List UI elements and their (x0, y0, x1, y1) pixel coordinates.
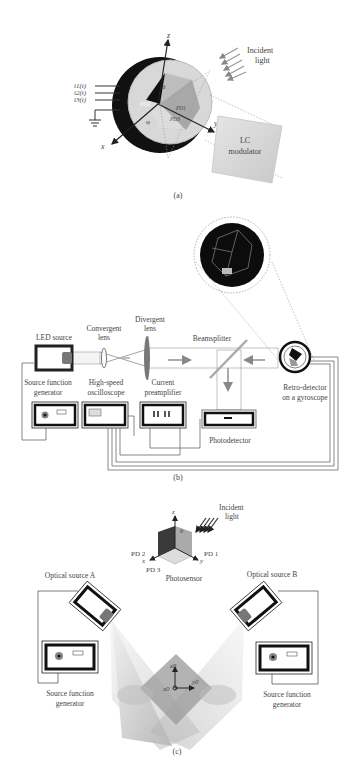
pd1-label: PD 1 (204, 550, 219, 558)
generator-left-label-1: Source function (46, 689, 94, 698)
origin-x-label: x0 (162, 685, 170, 693)
divergent-lens-label-1: Divergent (135, 315, 166, 324)
source-function-generator-label-2: generator (34, 388, 63, 397)
incident-light-label-1: Incident (247, 46, 274, 55)
caption-c: (c) (173, 747, 182, 756)
convergent-lens-label-1: Convergent (87, 324, 123, 333)
generator-right-label-1: Source function (263, 690, 311, 699)
incident-light-arrows-c (196, 518, 218, 532)
oscilloscope-label-1: High-speed (89, 378, 124, 387)
x-axis-label: x (100, 142, 105, 151)
preamplifier-label-1: Current (152, 378, 176, 387)
pd3-label: PD3 (169, 116, 180, 122)
current-i3-label: i3(t) (74, 96, 87, 104)
incident-light-c-label-1: Incident (219, 503, 244, 512)
lc-modulator-label-2: modulator (229, 147, 262, 156)
preamplifier-label-2: preamplifier (144, 388, 182, 397)
photodetector-label: Photodetector (209, 436, 251, 445)
photosensor-z-label: z (171, 508, 175, 516)
beamsplitter-label: Beamsplitter (193, 334, 232, 343)
photosensor-y-label: y (199, 557, 204, 565)
oscilloscope-label-2: oscilloscope (87, 388, 125, 397)
z-axis-label: z (166, 31, 171, 40)
optical-source-a-label: Optical source A (45, 571, 96, 580)
convergent-lens (102, 348, 107, 368)
photosensor-x-label: x (141, 557, 146, 565)
incident-light-arrows (220, 48, 246, 80)
divergent-lens-label-2: lens (144, 324, 156, 333)
optical-source-b (230, 581, 282, 631)
source-function-generator-label-1: Source function (24, 378, 72, 387)
divergent-lens (144, 336, 150, 380)
led-emitter (62, 352, 72, 364)
figure-canvas: i1(t) i2(t) i3(t) z y x θ φ PD2 PD1 PD3 (0, 0, 350, 770)
origin-z-label: z0 (169, 662, 177, 670)
convergent-lens-label-2: lens (98, 333, 110, 342)
panel-c: z0 y0 x0 z y x θ PD 2 PD 1 PD 3 Photosen… (38, 503, 318, 756)
caption-a: (a) (174, 191, 183, 200)
lc-modulator-label-1: LC (240, 136, 250, 145)
photosensor-theta-label: θ (180, 527, 183, 534)
generator-right-label-2: generator (273, 700, 302, 709)
caption-b: (b) (173, 473, 183, 482)
generator-left-label-2: generator (56, 699, 85, 708)
pd1-label: PD1 (175, 105, 186, 111)
panel-b: LED source Convergent lens Divergent len… (22, 217, 338, 482)
origin-y-label: y0 (191, 678, 199, 686)
pd2-label: PD 2 (131, 550, 146, 558)
phi-label: φ (146, 118, 150, 126)
pd3-label: PD 3 (146, 566, 161, 574)
led-source-label: LED source (36, 333, 73, 342)
panel-a: i1(t) i2(t) i3(t) z y x θ φ PD2 PD1 PD3 (74, 31, 282, 200)
optical-source-b-label: Optical source B (247, 570, 297, 579)
pd2-label: PD2 (139, 101, 150, 107)
incident-light-c-label-2: light (225, 512, 240, 521)
photosensor-label: Photosensor (166, 574, 203, 583)
incident-light-label-2: light (255, 56, 270, 65)
retro-detector-label-2: on a gyroscope (282, 393, 328, 402)
retro-detector-label-1: Retro-detector (283, 383, 327, 392)
